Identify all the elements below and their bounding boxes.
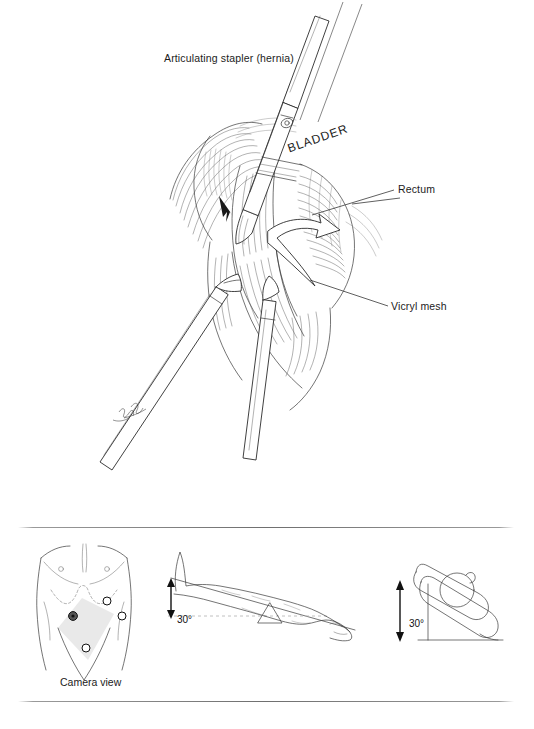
label-rectum: Rectum <box>398 184 435 196</box>
port-working-right <box>118 612 126 620</box>
grasper-lower-left <box>100 274 241 470</box>
angle-label-supine: 30° <box>177 614 192 625</box>
port-working-upper <box>103 597 111 605</box>
main-illustration: Articulating stapler (hernia) BLADDER Re… <box>0 0 534 520</box>
grasper-lower-right <box>243 276 279 460</box>
label-vicryl-mesh: Vicryl mesh <box>391 301 447 313</box>
port-placement-torso <box>37 544 132 680</box>
patient-position-lateral <box>396 564 503 642</box>
figure-page: Articulating stapler (hernia) BLADDER Re… <box>0 0 534 729</box>
angle-arrow-lateral <box>396 580 404 642</box>
angle-label-lateral: 30° <box>409 618 424 629</box>
leader-vicryl-mesh <box>310 280 388 306</box>
patient-position-supine <box>167 552 355 641</box>
retraction-arrow <box>268 214 340 286</box>
small-pointer-arrow <box>219 196 233 222</box>
angle-arrow-supine <box>167 578 175 619</box>
port-working-lower <box>82 644 90 652</box>
leader-rectum <box>312 190 394 215</box>
articulating-stapler-instrument <box>236 16 329 244</box>
caption-camera-view: Camera view <box>60 676 121 688</box>
operative-view-drawing <box>0 0 534 520</box>
label-articulating-stapler: Articulating stapler (hernia) <box>164 53 294 65</box>
